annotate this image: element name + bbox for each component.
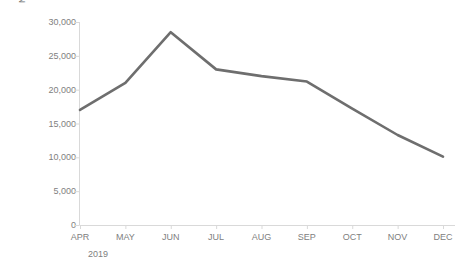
- x-axis-group-label: 2019: [88, 249, 108, 259]
- x-tick-label: AUG: [252, 232, 272, 242]
- x-axis-tick-labels: APRMAYJUNJULAUGSEPOCTNOVDEC: [0, 0, 470, 274]
- line-chart: NUMBER OF PROJECT HOURS 05,00010,00015,0…: [0, 0, 470, 274]
- x-tick-label: JUL: [208, 232, 224, 242]
- x-tick-label: JUN: [162, 232, 180, 242]
- x-tick-label: APR: [71, 232, 90, 242]
- x-tick-label: NOV: [388, 232, 408, 242]
- x-tick-label: DEC: [433, 232, 452, 242]
- x-tick-label: SEP: [298, 232, 316, 242]
- x-tick-label: MAY: [116, 232, 135, 242]
- x-tick-label: OCT: [343, 232, 362, 242]
